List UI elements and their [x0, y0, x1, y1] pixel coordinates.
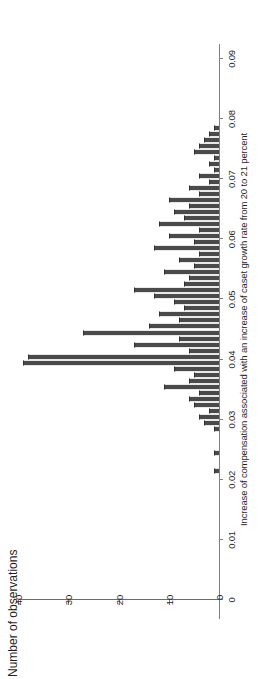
histogram-bar: [184, 281, 219, 287]
histogram-bar: [184, 215, 219, 221]
x-axis-tick: [219, 298, 223, 299]
x-axis-line: [219, 44, 220, 619]
x-axis-tick: [219, 479, 223, 480]
histogram-bar: [169, 197, 219, 203]
histogram-bar: [28, 354, 219, 360]
x-axis-tick: [219, 539, 223, 540]
histogram-bar: [209, 131, 219, 137]
histogram-bar: [189, 203, 219, 209]
plot-area: [8, 59, 219, 600]
x-axis-tick-label: 0.03: [226, 411, 237, 429]
x-axis-tick-label: 0.08: [226, 110, 237, 128]
histogram-bar: [194, 402, 219, 408]
histogram-bar: [159, 311, 219, 317]
x-axis-tick-label: 0.06: [226, 230, 237, 248]
histogram-bar: [154, 293, 219, 299]
x-axis-tick-label: 0.02: [226, 471, 237, 489]
histogram-bar: [83, 330, 219, 336]
x-axis-tick-label: 0.07: [226, 170, 237, 188]
histogram-bar: [204, 420, 219, 426]
histogram-bar: [134, 342, 219, 348]
histogram-bar: [199, 227, 219, 233]
histogram-bar: [164, 269, 219, 275]
x-axis-tick: [219, 118, 223, 119]
histogram-bar: [134, 287, 219, 293]
histogram-bar: [179, 257, 219, 263]
histogram-bar: [189, 396, 219, 402]
histogram-bar: [174, 209, 219, 215]
histogram-bar: [194, 239, 219, 245]
histogram-bar: [159, 221, 219, 227]
histogram-bar: [189, 275, 219, 281]
y-axis-tick-label: 20: [113, 595, 124, 619]
y-axis-tick-label: 10: [163, 595, 174, 619]
x-axis-tick: [219, 419, 223, 420]
x-axis-tick: [219, 238, 223, 239]
x-axis-title: Increase of compensation associated with…: [238, 59, 249, 600]
histogram-bar: [194, 263, 219, 269]
histogram-bar: [199, 414, 219, 420]
x-axis-tick-label: 0: [226, 597, 237, 602]
x-axis-tick: [219, 359, 223, 360]
histogram-bar: [164, 384, 219, 390]
histogram-bar: [149, 324, 219, 330]
histogram-bar: [169, 233, 219, 239]
histogram-bar: [189, 348, 219, 354]
x-axis-tick: [219, 178, 223, 179]
x-axis-tick-label: 0.01: [226, 531, 237, 549]
histogram-bar: [209, 161, 219, 167]
histogram-bar: [179, 336, 219, 342]
histogram-bar: [174, 299, 219, 305]
histogram-figure: Number of observations 00.010.020.030.04…: [0, 0, 264, 679]
histogram-bar: [189, 378, 219, 384]
histogram-bar: [199, 173, 219, 179]
x-axis-tick-label: 0.05: [226, 291, 237, 309]
histogram-bar: [194, 149, 219, 155]
histogram-bar: [179, 318, 219, 324]
histogram-bar: [174, 366, 219, 372]
histogram-bar: [199, 143, 219, 149]
histogram-bar: [154, 245, 219, 251]
histogram-bar: [199, 251, 219, 257]
histogram-bar: [199, 191, 219, 197]
histogram-bar: [184, 305, 219, 311]
histogram-bar: [199, 390, 219, 396]
histogram-bar: [209, 408, 219, 414]
histogram-bar: [209, 179, 219, 185]
y-axis-tick-label: 40: [13, 595, 24, 619]
y-axis-tick-label: 30: [63, 595, 74, 619]
histogram-bar: [189, 185, 219, 191]
x-axis-tick-label: 0.04: [226, 351, 237, 369]
figure-rotation-wrapper: Number of observations 00.010.020.030.04…: [0, 0, 264, 679]
x-axis-tick: [219, 58, 223, 59]
histogram-bar: [204, 137, 219, 143]
x-axis-tick-label: 0.09: [226, 50, 237, 68]
histogram-bar: [194, 372, 219, 378]
histogram-bar: [23, 360, 219, 366]
y-axis-tick-label: 0: [214, 595, 225, 619]
